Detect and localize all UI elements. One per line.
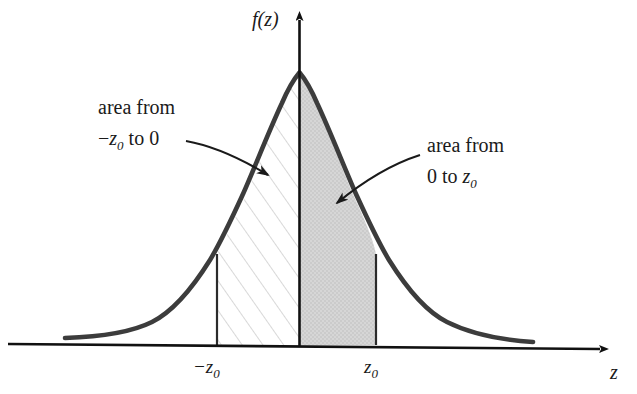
tick-pos-subscript: 0 <box>371 366 378 381</box>
hatched-area <box>217 73 300 346</box>
right-annotation-line2: 0 to z0 <box>427 165 477 191</box>
left-annotation-line2: −z0 to 0 <box>98 127 159 153</box>
svg-text:−z0: −z0 <box>193 356 220 381</box>
left-annot-symbol: z <box>108 127 117 149</box>
right-annot-symbol: z <box>462 165 471 187</box>
tick-neg-sign: − <box>193 356 206 377</box>
normal-distribution-figure: f(z) z −z0 z0 area from −z0 to 0 area fr… <box>0 0 637 394</box>
right-annotation: area from 0 to z0 <box>337 134 505 203</box>
left-annot-suffix: to 0 <box>124 127 160 149</box>
tick-label-pos-z0: z0 <box>363 356 378 381</box>
tick-neg-subscript: 0 <box>213 366 220 381</box>
right-annotation-line1: area from <box>427 134 505 156</box>
y-axis-label: f(z) <box>252 8 279 31</box>
left-annotation: area from −z0 to 0 <box>98 96 268 175</box>
right-annot-subscript: 0 <box>470 176 477 191</box>
right-annot-prefix: 0 to <box>427 165 463 187</box>
tick-label-neg-z0: −z0 <box>193 356 220 381</box>
left-annot-sign: − <box>98 127 109 149</box>
area-regions <box>217 73 376 346</box>
left-annotation-line1: area from <box>98 96 176 118</box>
svg-text:z0: z0 <box>363 356 378 381</box>
figure-canvas: f(z) z −z0 z0 area from −z0 to 0 area fr… <box>0 0 637 394</box>
x-axis-label: z <box>609 361 618 383</box>
